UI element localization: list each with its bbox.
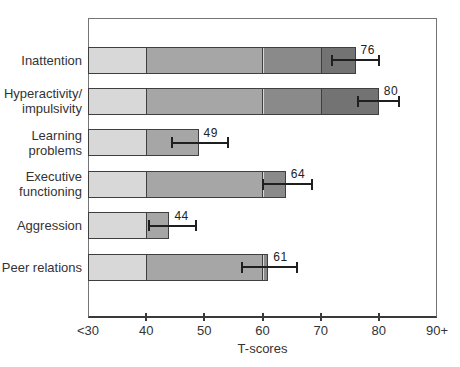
bar-row xyxy=(88,171,286,198)
axis-tick xyxy=(320,313,322,321)
bar-segment xyxy=(89,172,147,197)
error-bar-cap xyxy=(331,55,333,66)
axis-tick-label: 80 xyxy=(357,323,401,338)
error-bar-cap xyxy=(262,179,264,190)
value-label: 64 xyxy=(291,167,305,181)
bar-row xyxy=(88,47,356,74)
value-label: 76 xyxy=(361,43,375,57)
value-label: 44 xyxy=(174,209,188,223)
axis-tick xyxy=(203,313,205,321)
bar-segment xyxy=(89,130,147,155)
error-bar xyxy=(242,266,297,268)
bar-segment xyxy=(264,89,322,114)
error-bar xyxy=(149,225,196,227)
error-bar-cap xyxy=(311,179,313,190)
error-bar xyxy=(332,59,379,61)
axis-tick-label: <30 xyxy=(66,323,110,338)
category-label: Executivefunctioning xyxy=(19,169,82,199)
error-bar-cap xyxy=(296,262,298,273)
axis-tick xyxy=(262,313,264,321)
x-axis-title: T-scores xyxy=(88,341,437,356)
bar-segment xyxy=(147,48,263,73)
axis-tick-label: 40 xyxy=(124,323,168,338)
axis-tick xyxy=(378,313,380,321)
axis-tick-label: 60 xyxy=(241,323,285,338)
error-bar-cap xyxy=(398,96,400,107)
value-label: 80 xyxy=(384,84,398,98)
category-label: Aggression xyxy=(17,218,82,233)
bar-segment xyxy=(89,255,147,280)
axis-tick-label: 70 xyxy=(299,323,343,338)
error-bar-cap xyxy=(148,220,150,231)
category-label: Learningproblems xyxy=(29,128,82,158)
bar-segment xyxy=(89,213,147,238)
error-bar xyxy=(358,100,399,102)
bar-row xyxy=(88,88,379,115)
bar-segment xyxy=(264,48,322,73)
bar-segment xyxy=(89,89,147,114)
bar-segment xyxy=(147,89,263,114)
value-label: 61 xyxy=(273,250,287,264)
bar-segment xyxy=(89,48,147,73)
category-label: Hyperactivity/impulsivity xyxy=(4,86,82,116)
error-bar-cap xyxy=(171,137,173,148)
axis-tick xyxy=(145,313,147,321)
error-bar-cap xyxy=(241,262,243,273)
bar-segment xyxy=(147,172,263,197)
category-label: Inattention xyxy=(21,53,82,68)
error-bar xyxy=(263,183,312,185)
axis-tick-label: 90+ xyxy=(415,323,459,338)
error-bar-cap xyxy=(378,55,380,66)
axis-tick-label: 50 xyxy=(182,323,226,338)
error-bar-cap xyxy=(195,220,197,231)
chart: 76Inattention80Hyperactivity/impulsivity… xyxy=(0,0,460,367)
category-label: Peer relations xyxy=(2,260,82,275)
value-label: 49 xyxy=(204,126,218,140)
error-bar-cap xyxy=(227,137,229,148)
error-bar-cap xyxy=(357,96,359,107)
error-bar xyxy=(172,142,227,144)
